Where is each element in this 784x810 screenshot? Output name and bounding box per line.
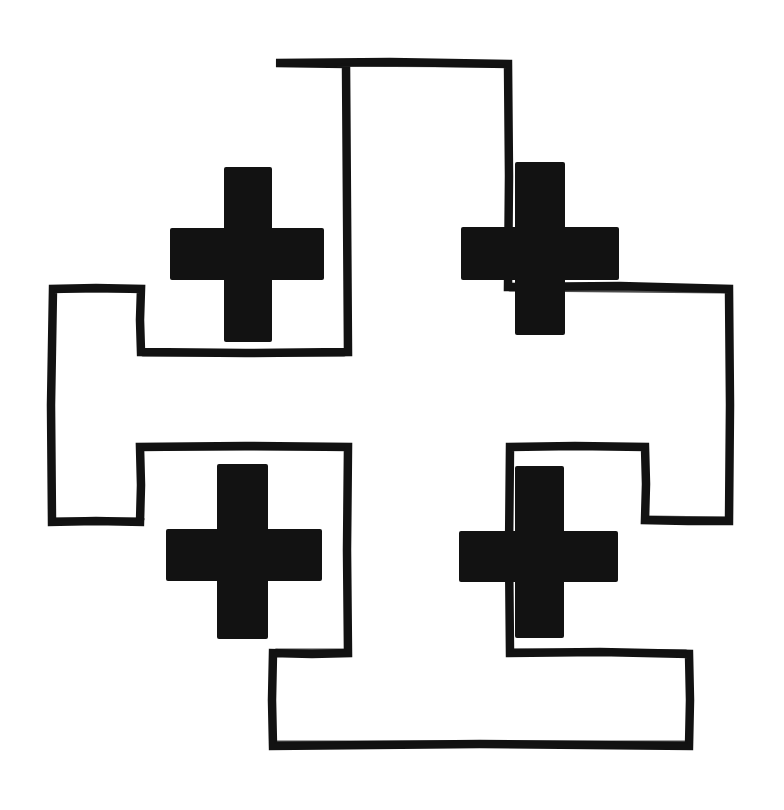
crosslet-top-right-horizontal-bar — [461, 227, 619, 280]
crosslet-bottom-left-horizontal-bar — [166, 529, 322, 581]
crosslet-top-left-horizontal-bar — [170, 228, 324, 280]
jerusalem-cross-drawing — [0, 0, 784, 810]
artboard: Jerusalem Cross: a large outlined cross … — [0, 0, 784, 810]
crosslet-bottom-right-horizontal-bar — [459, 531, 618, 582]
